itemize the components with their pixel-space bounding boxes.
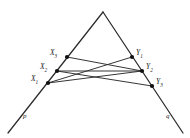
point-label-x2: X2	[40, 63, 47, 73]
point-label-y1: Y1	[136, 49, 143, 59]
point-label-subscript: 1	[36, 79, 39, 85]
ray-lines	[8, 12, 183, 133]
figure-canvas: X3X2X1Y1Y2Y3pq	[0, 0, 190, 138]
point-dot-x2	[55, 69, 59, 73]
point-label-y3: Y3	[156, 78, 163, 88]
point-dot-y2	[140, 69, 144, 73]
point-label-y2: Y2	[146, 63, 153, 73]
point-dot-y1	[130, 55, 134, 59]
ray-label-p: p	[23, 113, 27, 120]
segment-x3-y2	[67, 57, 142, 71]
point-label-x1: X1	[31, 75, 38, 85]
point-label-subscript: 2	[150, 67, 153, 73]
point-label-subscript: 1	[140, 53, 143, 59]
point-label-x3: X3	[50, 49, 57, 59]
segment-x1-y2	[48, 71, 142, 83]
point-label-subscript: 2	[45, 67, 48, 73]
point-label-subscript: 3	[55, 53, 58, 59]
point-dot-x3	[65, 55, 69, 59]
point-label-subscript: 3	[160, 82, 163, 88]
segment-x2-y3	[57, 71, 152, 86]
point-dot-x1	[46, 81, 50, 85]
geometry-diagram	[0, 0, 190, 138]
point-dot-y3	[150, 84, 154, 88]
ray-label-q: q	[166, 113, 170, 120]
